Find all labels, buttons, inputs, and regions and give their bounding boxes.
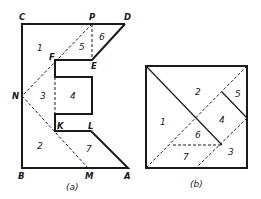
figure-b-caption: (b): [190, 179, 203, 189]
point-label-l: L: [88, 121, 93, 131]
point-label-p: P: [89, 12, 96, 22]
point-label-d: D: [124, 12, 131, 22]
diagram-stage: C P D F E N K L B M A 1 2 3 4 5 6 7 (a) …: [0, 0, 261, 199]
point-label-n: N: [12, 91, 19, 101]
piece-a-5: 5: [79, 42, 85, 52]
figure-a: C P D F E N K L B M A 1 2 3 4 5 6 7 (a): [12, 12, 131, 192]
piece-a-4: 4: [70, 91, 76, 101]
piece-a-1: 1: [37, 43, 43, 53]
piece-b-2: 2: [195, 87, 201, 97]
point-label-c: C: [19, 12, 26, 22]
point-label-a: A: [123, 171, 131, 181]
piece-a-7: 7: [86, 144, 92, 154]
piece-b-5: 5: [235, 89, 241, 99]
piece-b-1: 1: [160, 117, 166, 127]
figure-a-caption: (a): [66, 182, 79, 192]
point-label-e: E: [91, 61, 97, 71]
diagram-canvas: C P D F E N K L B M A 1 2 3 4 5 6 7 (a) …: [0, 0, 261, 199]
piece-a-3: 3: [40, 91, 46, 101]
piece-b-3: 3: [228, 147, 234, 157]
point-label-k: K: [57, 121, 65, 131]
point-label-b: B: [18, 171, 24, 181]
piece-b-6: 6: [195, 130, 201, 140]
figure-b: 1 2 3 4 5 6 7 (b): [146, 66, 247, 189]
piece-a-2: 2: [37, 141, 43, 151]
piece-b-7: 7: [183, 152, 189, 162]
point-label-f: F: [49, 52, 55, 62]
point-label-m: M: [85, 171, 94, 181]
piece-a-6: 6: [99, 32, 105, 42]
solid-diagonal: [146, 66, 222, 145]
piece-b-4: 4: [219, 115, 225, 125]
